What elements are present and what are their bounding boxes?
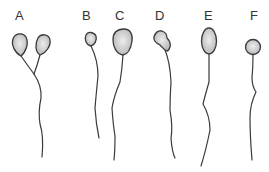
sperm-a bbox=[12, 34, 50, 157]
sperm-f-head bbox=[246, 40, 261, 55]
sperm-c bbox=[112, 29, 132, 160]
label-c: C bbox=[115, 8, 124, 23]
label-a: A bbox=[15, 8, 24, 23]
label-f: F bbox=[250, 8, 258, 23]
label-e: E bbox=[204, 8, 213, 23]
label-b: B bbox=[82, 8, 91, 23]
sperm-b bbox=[85, 32, 99, 138]
sperm-c-tail bbox=[112, 55, 123, 160]
sperm-a-tail-right bbox=[34, 55, 40, 74]
sperm-e bbox=[201, 28, 217, 166]
sperm-f-tail bbox=[250, 55, 256, 160]
sperm-e-head bbox=[202, 28, 217, 54]
sperm-a-head-left bbox=[12, 34, 27, 56]
label-d: D bbox=[155, 8, 164, 23]
sperm-c-head bbox=[113, 29, 132, 55]
sperm-d bbox=[154, 31, 175, 158]
sperm-b-tail bbox=[91, 46, 99, 138]
sperm-a-head-right bbox=[36, 35, 50, 55]
sperm-b-head bbox=[85, 32, 96, 46]
sperm-a-tail-left bbox=[21, 56, 34, 74]
sperm-d-tail bbox=[165, 50, 175, 158]
sperm-e-tail bbox=[201, 54, 210, 166]
sperm-a-tail-main bbox=[34, 74, 43, 157]
sperm-morphology-diagram: A B C D E F bbox=[0, 0, 269, 172]
sperm-f bbox=[246, 40, 261, 161]
sperm-d-head bbox=[154, 31, 170, 51]
